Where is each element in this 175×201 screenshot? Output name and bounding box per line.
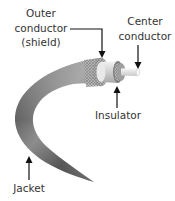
insulator-arrow-icon	[114, 86, 121, 108]
outer-conductor-label-line1: Outer	[5, 6, 77, 21]
center-conductor	[121, 68, 138, 76]
insulator-label-text: Insulator	[92, 108, 144, 123]
coax-cable-diagram: Outer conductor (shield) Center conducto…	[0, 0, 175, 201]
outer-conductor-label-line3: (shield)	[5, 35, 77, 50]
center-conductor-arrow-icon	[135, 45, 142, 69]
center-conductor-label-line2: conductor	[114, 29, 175, 44]
center-conductor-label-line1: Center	[114, 14, 175, 29]
outer-conductor-label: Outer conductor (shield)	[5, 6, 77, 50]
jacket-label: Jacket	[8, 181, 50, 196]
insulator-label: Insulator	[92, 108, 144, 123]
jacket-arrow-icon	[26, 156, 33, 180]
center-conductor-label: Center conductor	[114, 14, 175, 43]
jacket-label-text: Jacket	[8, 181, 50, 196]
outer-conductor-label-line2: conductor	[5, 21, 77, 36]
